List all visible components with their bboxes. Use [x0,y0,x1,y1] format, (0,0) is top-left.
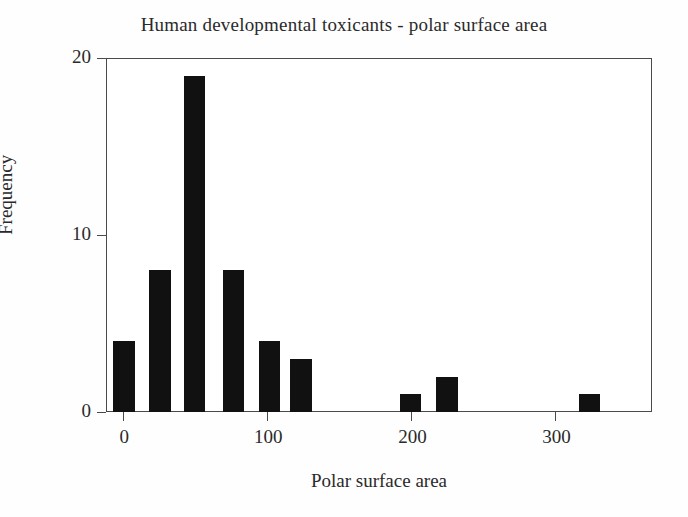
y-tick-label: 20 [72,46,91,68]
histogram-bar [259,341,281,412]
histogram-bar [290,359,312,412]
x-tick: 100 [267,412,268,421]
histogram-bar [149,270,171,412]
histogram-bar [184,76,206,412]
y-tick-label: 0 [82,400,92,422]
histogram-bar [113,341,135,412]
y-tick: 10 [97,235,106,236]
chart-title: Human developmental toxicants - polar su… [0,14,688,36]
x-tick-label: 100 [254,426,283,448]
x-tick: 0 [123,412,124,421]
y-axis-label: Frequency [0,155,17,235]
plot-area: 01020 0100200300 [106,58,652,412]
histogram-bar [400,394,422,412]
x-tick-label: 0 [120,426,130,448]
histogram-bar [223,270,245,412]
x-tick-label: 300 [542,426,571,448]
x-axis-label: Polar surface area [106,470,652,492]
x-tick: 300 [555,412,556,421]
x-tick: 200 [411,412,412,421]
y-tick-label: 10 [72,223,91,245]
y-tick: 0 [97,412,106,413]
chart-page: Human developmental toxicants - polar su… [0,0,688,517]
histogram-bar [579,394,601,412]
histogram-bar [436,377,458,412]
x-tick-label: 200 [398,426,427,448]
y-tick: 20 [97,58,106,59]
